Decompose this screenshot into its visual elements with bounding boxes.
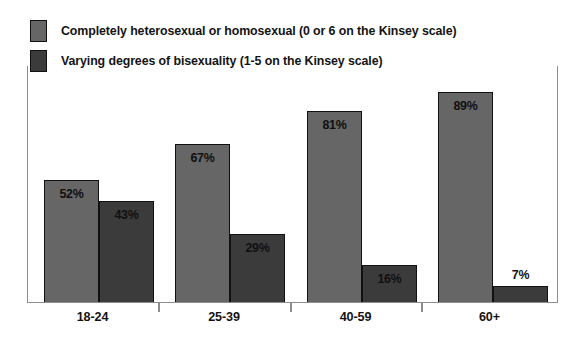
bar-value-40-59-bisexuality: 16% bbox=[363, 272, 416, 286]
axis-label-40-59: 40-59 bbox=[290, 310, 421, 324]
chart-plot-area: 52% 43% 67% 29% 81% 16% 89% 7% bbox=[27, 66, 558, 303]
bar-value-18-24-completely: 52% bbox=[45, 187, 98, 201]
legend-label-completely: Completely heterosexual or homosexual (0… bbox=[61, 24, 457, 38]
bar-25-39-bisexuality: 29% bbox=[230, 234, 285, 303]
legend-swatch-icon-completely bbox=[30, 20, 47, 42]
bar-value-18-24-bisexuality: 43% bbox=[100, 208, 153, 222]
bar-group-60-plus: 89% 7% bbox=[438, 66, 563, 303]
bar-25-39-completely: 67% bbox=[175, 144, 230, 303]
bar-group-18-24: 52% 43% bbox=[44, 66, 169, 303]
bar-group-25-39: 67% 29% bbox=[175, 66, 300, 303]
bar-value-60-plus-bisexuality: 7% bbox=[494, 268, 547, 282]
legend-item-completely: Completely heterosexual or homosexual (0… bbox=[30, 18, 550, 44]
axis-label-25-39: 25-39 bbox=[158, 310, 290, 324]
bar-value-60-plus-completely: 89% bbox=[439, 99, 492, 113]
bar-value-25-39-bisexuality: 29% bbox=[231, 241, 284, 255]
bar-group-40-59: 81% 16% bbox=[307, 66, 432, 303]
bar-60-plus-bisexuality: 7% bbox=[493, 286, 548, 303]
bar-18-24-bisexuality: 43% bbox=[99, 201, 154, 303]
bar-40-59-completely: 81% bbox=[307, 111, 362, 303]
bar-18-24-completely: 52% bbox=[44, 180, 99, 303]
axis-label-18-24: 18-24 bbox=[27, 310, 158, 324]
bar-60-plus-completely: 89% bbox=[438, 92, 493, 303]
bar-value-40-59-completely: 81% bbox=[308, 118, 361, 132]
bar-40-59-bisexuality: 16% bbox=[362, 265, 417, 303]
bar-value-25-39-completely: 67% bbox=[176, 151, 229, 165]
axis-label-60-plus: 60+ bbox=[421, 310, 558, 324]
